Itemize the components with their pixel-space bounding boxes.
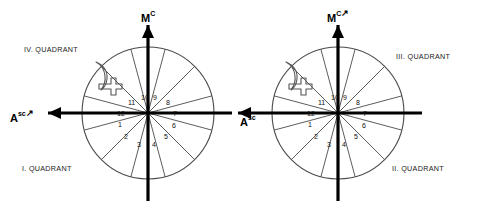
right-mc-base: M	[327, 12, 336, 24]
right-wheel-house-number: 3	[327, 141, 331, 148]
right-wheel-house-number: 6	[362, 122, 366, 129]
right-wheel-house-number: 1	[308, 121, 312, 128]
right-wheel-house-number: 10	[331, 94, 339, 101]
left-quadrant-label-i: I. QUADRANT	[22, 164, 72, 173]
left-asc-base: A	[10, 112, 18, 124]
house-wheel-figure: MC Asc↗ IV. QUADRANT I. QUADRANT MC↗ Asc…	[0, 0, 480, 219]
right-wheel-cusp-line	[291, 66, 338, 113]
left-asc-sup: sc	[18, 110, 26, 117]
left-wheel-house-number: 6	[172, 122, 176, 129]
left-wheel-house-number: 4	[152, 141, 156, 148]
left-wheel-house-number: 1	[118, 121, 122, 128]
left-wheel-house-number: 5	[164, 133, 168, 140]
right-wheel-cross-glyph	[289, 78, 312, 95]
right-wheel-house-number: 9	[343, 94, 347, 101]
right-wheel-house-number: 8	[356, 99, 360, 106]
left-wheel-house-number: 7	[173, 110, 177, 117]
right-wheel-house-number: 12	[307, 110, 315, 117]
right-wheel-cusp-line	[338, 96, 402, 113]
left-wheel-cusp-line	[148, 49, 165, 113]
left-wheel-house-number: 9	[153, 94, 157, 101]
right-wheel-moon-glyph	[286, 62, 297, 90]
right-wheel-house-number: 2	[314, 133, 318, 140]
right-wheel-cusp-line	[338, 113, 355, 177]
left-wheel-house-number: 10	[141, 94, 149, 101]
left-wheel-cusp-line	[148, 66, 195, 113]
left-wheel-house-number: 11	[128, 99, 135, 106]
left-wheel-cusp-line	[148, 96, 212, 113]
left-mc-base: M	[141, 12, 150, 24]
right-asc-label: Asc	[240, 112, 256, 130]
left-mc-sup: C	[150, 10, 155, 17]
right-mc-arrow-icon: ↗	[341, 8, 349, 18]
left-wheel-cusp-line	[148, 113, 195, 160]
right-wheel-cusp-line	[338, 66, 385, 113]
left-wheel-asc-arrow-icon	[48, 107, 61, 119]
left-wheel-mc-arrow-icon	[142, 25, 154, 38]
left-wheel-house-number: 8	[166, 99, 170, 106]
wheel-vector-layer	[0, 0, 480, 219]
right-asc-sup: sc	[248, 114, 256, 121]
left-wheel-cross-glyph	[99, 78, 122, 95]
left-wheel-cusp-line	[101, 66, 148, 113]
right-wheel-house-number: 11	[318, 99, 325, 106]
right-quadrant-label-iii: III. QUADRANT	[396, 52, 450, 61]
left-mc-label: MC	[141, 8, 155, 26]
right-wheel-cusp-line	[338, 113, 402, 130]
right-wheel-cusp-line	[338, 113, 385, 160]
left-wheel-cusp-line	[148, 113, 165, 177]
right-wheel-cusp-line	[338, 49, 355, 113]
right-wheel-mc-arrow-icon	[332, 25, 344, 38]
right-asc-base: A	[240, 116, 248, 128]
right-wheel-group	[238, 25, 422, 201]
left-wheel-house-number: 3	[137, 141, 141, 148]
right-wheel-house-number: 4	[342, 141, 346, 148]
left-asc-label: Asc↗	[10, 108, 34, 126]
left-wheel-house-number: 12	[117, 110, 125, 117]
right-quadrant-label-ii: II. QUADRANT	[392, 164, 444, 173]
left-quadrant-label-iv: IV. QUADRANT	[24, 45, 78, 54]
left-wheel-moon-glyph	[96, 62, 107, 90]
right-mc-label: MC↗	[327, 8, 349, 26]
left-wheel-house-number: 2	[124, 133, 128, 140]
right-wheel-house-number: 7	[363, 110, 367, 117]
left-wheel-cusp-line	[148, 113, 212, 130]
left-asc-arrow-icon: ↗	[26, 108, 34, 118]
right-wheel-house-number: 5	[354, 133, 358, 140]
